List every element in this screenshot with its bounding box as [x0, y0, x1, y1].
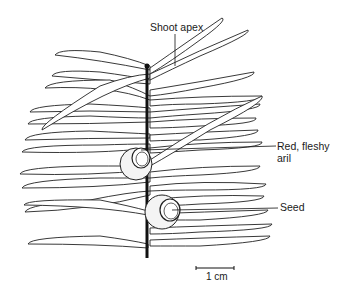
shoot-apex-label: Shoot apex	[150, 22, 203, 33]
shoot-apex-bud	[145, 64, 150, 69]
aril-label-line2: aril	[277, 153, 291, 164]
aril-label-line1: Red, fleshy	[277, 141, 330, 152]
lower-aril	[145, 195, 180, 229]
seed-leader-line	[172, 208, 278, 210]
upper-aril	[120, 148, 152, 180]
seed-label: Seed	[280, 202, 305, 213]
scale-bar-label: 1 cm	[206, 271, 228, 282]
